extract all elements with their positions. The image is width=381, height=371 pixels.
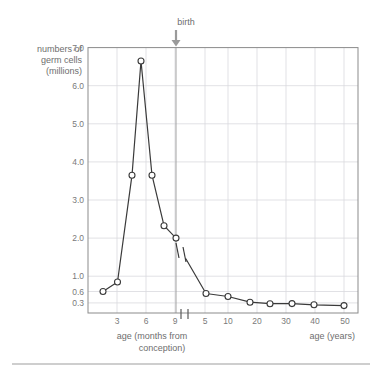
data-point-marker (225, 294, 231, 300)
x-tick-label-right: 30 (281, 316, 291, 326)
x-tick-labels-right: 5 10 20 30 40 50 (203, 316, 350, 326)
x-axis-title-right: age (years) (309, 331, 355, 341)
data-point-marker (289, 301, 295, 307)
y-tick-label: 0.6 (72, 287, 84, 297)
y-tick-label: 2.0 (72, 233, 84, 243)
x-tick-label-right: 10 (223, 316, 233, 326)
y-tick-labels: 7.0 6.0 5.0 4.0 3.0 2.0 1.0 0.6 0.3 (72, 43, 84, 308)
data-point-marker (247, 299, 253, 305)
x-tick-label-left: 3 (115, 316, 120, 326)
y-tick-label: 4.0 (72, 157, 84, 167)
x-axis-break-marks (181, 309, 188, 319)
birth-annotation: birth (172, 17, 195, 47)
birth-annotation-label: birth (177, 17, 195, 27)
horizontal-gridlines (88, 86, 358, 303)
x-axis-title-left-line-1: age (months from (117, 331, 188, 341)
x-tick-label-right: 40 (310, 316, 320, 326)
x-tick-label-right: 50 (340, 316, 350, 326)
data-point-marker (173, 235, 179, 241)
x-tick-label-left: 9 (173, 316, 178, 326)
y-tick-label: 6.0 (72, 81, 84, 91)
y-tick-label: 5.0 (72, 119, 84, 129)
x-axis-title-left: age (months from conception) (117, 331, 188, 353)
y-axis-label-line-3: (millions) (46, 66, 82, 76)
data-point-marker (161, 223, 167, 229)
data-point-marker (311, 302, 317, 308)
x-tick-label-left: 6 (144, 316, 149, 326)
x-axis-title-left-line-2: conception) (139, 343, 186, 353)
data-point-markers (100, 58, 347, 309)
x-tick-label-right: 20 (252, 316, 262, 326)
data-point-marker (149, 172, 155, 178)
data-point-marker (203, 291, 209, 297)
data-point-marker (341, 303, 347, 309)
down-arrow-icon (172, 30, 181, 47)
data-point-marker (100, 289, 106, 295)
y-tick-label: 3.0 (72, 195, 84, 205)
y-axis-label-line-2: germ cells (41, 55, 83, 65)
x-tick-labels-left: 3 6 9 (115, 316, 178, 326)
line-break-marks (176, 243, 186, 262)
x-tick-label-right: 5 (203, 316, 208, 326)
data-point-marker (115, 279, 121, 285)
germ-cell-chart-figure: numbers of germ cells (millions) birth (0, 0, 381, 371)
y-tick-label: 1.0 (72, 271, 84, 281)
chart-svg: numbers of germ cells (millions) birth (0, 0, 381, 371)
y-tick-label: 7.0 (72, 43, 84, 53)
data-line-prenatal (103, 61, 176, 292)
data-point-marker (138, 58, 144, 64)
vertical-gridlines (117, 48, 344, 313)
data-point-marker (267, 301, 273, 307)
data-point-marker (129, 172, 135, 178)
y-tick-label: 0.3 (72, 298, 84, 308)
plot-frame (88, 48, 358, 313)
data-line-postnatal (186, 259, 344, 306)
